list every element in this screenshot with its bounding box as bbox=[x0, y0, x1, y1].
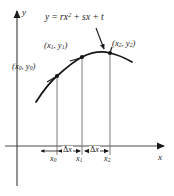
equation-leader-line bbox=[96, 28, 104, 49]
equation-equals: = bbox=[52, 12, 58, 22]
point-label-x1y1: (x1, y1) bbox=[44, 41, 67, 50]
delta-x-span-1-right-arrow bbox=[76, 149, 81, 153]
paren-close-x2y2: ) bbox=[132, 38, 135, 48]
x1-tick-subscript: 1 bbox=[80, 157, 83, 163]
x2-tick-subscript: 2 bbox=[108, 157, 111, 163]
point-marker-x2y2 bbox=[108, 51, 112, 55]
delta-x-label-1: Δx bbox=[62, 146, 73, 154]
equation-plus-2: + bbox=[93, 12, 99, 22]
x-axis-label: x bbox=[158, 153, 162, 162]
x0-tick-subscript: 0 bbox=[54, 157, 57, 163]
x-tick-label-x0: x0 bbox=[50, 155, 56, 163]
figure-canvas bbox=[0, 0, 174, 196]
x-tick-label-x1: x1 bbox=[76, 155, 82, 163]
delta-var-1: x bbox=[68, 145, 72, 154]
equation-term3: t bbox=[101, 12, 104, 22]
equation-lhs: y bbox=[45, 12, 49, 22]
equation-plus-1: + bbox=[74, 12, 80, 22]
point-label-x2y2: (x2, y2) bbox=[112, 39, 135, 48]
delta-x-span-2-right-arrow bbox=[104, 149, 109, 153]
y-axis-label: y bbox=[22, 8, 26, 17]
equation-term1-exponent: 2 bbox=[68, 11, 71, 18]
curve-equation-label: y = rx2 + sx + t bbox=[45, 13, 104, 22]
delta-var-2: x bbox=[95, 145, 99, 154]
equation-term2-var: x bbox=[86, 12, 90, 22]
x-tick-label-x2: x2 bbox=[104, 155, 110, 163]
parabola-diagram: y x y = rx2 + sx + t (x0, y0) (x1, y1) (… bbox=[0, 0, 174, 196]
paren-close-x1y1: ) bbox=[64, 40, 67, 50]
delta-x-label-2: Δx bbox=[89, 146, 100, 154]
paren-close-x0y0: ) bbox=[32, 61, 35, 71]
point-label-x0y0: (x0, y0) bbox=[12, 62, 35, 71]
quadratic-curve bbox=[36, 52, 132, 102]
